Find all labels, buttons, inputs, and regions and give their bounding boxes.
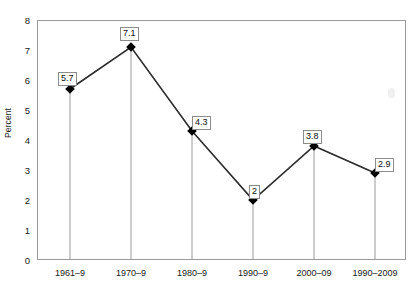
line-chart: Percent 8 7 6 5 4 3 2 1 0 5.7 7.1 4.3 2 … [0, 0, 419, 300]
data-label: 2.9 [375, 158, 394, 172]
x-tick-label: 1961–9 [40, 268, 100, 278]
x-tick-label: 1980–9 [162, 268, 222, 278]
markers-group [65, 42, 380, 205]
scan-artifact [388, 88, 395, 98]
series-line [70, 47, 375, 200]
data-label: 3.8 [303, 130, 322, 144]
data-label: 4.3 [192, 116, 211, 130]
x-tick-label: 1970–9 [101, 268, 161, 278]
data-label: 7.1 [120, 27, 139, 41]
x-tick-label: 2000–09 [282, 268, 346, 278]
x-tick-label: 1990–2009 [339, 268, 411, 278]
x-tick-label: 1990–9 [223, 268, 283, 278]
series-layer [0, 0, 419, 300]
data-label: 2 [249, 185, 260, 199]
data-label: 5.7 [58, 72, 77, 86]
